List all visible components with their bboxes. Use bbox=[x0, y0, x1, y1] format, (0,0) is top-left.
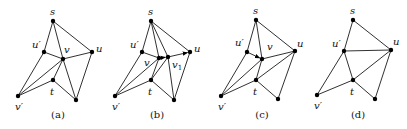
edge-u_prime-u bbox=[344, 50, 391, 51]
edge-s-u_prime bbox=[344, 20, 353, 51]
panel-d: su′utv′(d) bbox=[314, 5, 399, 120]
edge-t-w bbox=[151, 80, 174, 100]
node-label-v_prime: v′ bbox=[15, 101, 24, 112]
edge-s-u bbox=[53, 21, 92, 52]
node-label-v: v bbox=[144, 57, 150, 68]
node-u_prime bbox=[42, 50, 46, 54]
node-w bbox=[373, 97, 377, 101]
panels-container: su′vutv′(a)su′vv1utv′(b)su′vutv′(c)su′ut… bbox=[15, 5, 399, 120]
edge-s-v bbox=[256, 20, 262, 59]
node-label-u_prime: u′ bbox=[32, 39, 41, 50]
edge-t-v_prime bbox=[317, 80, 353, 95]
node-label-u_prime: u′ bbox=[332, 38, 341, 49]
edge-v-t bbox=[53, 59, 63, 80]
node-label-s: s bbox=[50, 6, 55, 17]
edge-u-w bbox=[278, 51, 295, 99]
node-t bbox=[351, 78, 355, 82]
node-label-s: s bbox=[148, 6, 153, 17]
edge-s-v bbox=[53, 21, 63, 59]
node-v_prime bbox=[315, 93, 319, 97]
panel-b: su′vv1utv′(b) bbox=[112, 6, 200, 120]
edge-t-u bbox=[353, 50, 391, 80]
node-u bbox=[389, 48, 393, 52]
edge-u-w bbox=[375, 50, 391, 99]
edge-u_prime-v_prime bbox=[18, 52, 44, 96]
node-u bbox=[90, 50, 94, 54]
edge-v1-t bbox=[151, 57, 168, 80]
node-s bbox=[149, 19, 153, 23]
node-u_prime bbox=[140, 50, 144, 54]
node-label-u: u bbox=[194, 43, 200, 54]
node-label-s: s bbox=[253, 5, 258, 16]
node-t bbox=[149, 78, 153, 82]
edge-s-u bbox=[256, 20, 295, 51]
panel-a: su′vutv′(a) bbox=[15, 6, 102, 120]
node-u bbox=[293, 49, 297, 53]
panel-caption-b: (b) bbox=[150, 109, 164, 120]
node-label-u_prime: u′ bbox=[130, 39, 139, 50]
node-label-t: t bbox=[253, 86, 258, 97]
node-v bbox=[157, 56, 161, 60]
edge-t-v_prime bbox=[221, 80, 256, 96]
graph-figure: su′vutv′(a)su′vv1utv′(b)su′vutv′(c)su′ut… bbox=[0, 0, 407, 129]
node-u_prime bbox=[245, 50, 249, 54]
node-label-v1: v1 bbox=[172, 59, 182, 72]
edge-u-w bbox=[76, 52, 92, 100]
edge-v-v_prime bbox=[18, 59, 63, 96]
node-label-v_prime: v′ bbox=[112, 101, 121, 112]
edge-s-u_prime bbox=[247, 20, 256, 52]
node-label-t: t bbox=[148, 86, 153, 97]
node-u bbox=[188, 50, 192, 54]
node-u_prime bbox=[342, 49, 346, 53]
edge-t-w bbox=[256, 80, 278, 99]
node-label-s: s bbox=[350, 5, 355, 16]
node-label-u: u bbox=[393, 36, 399, 47]
node-label-t: t bbox=[50, 86, 55, 97]
node-v_prime bbox=[113, 94, 117, 98]
panel-c: su′vutv′(c) bbox=[218, 5, 303, 120]
node-label-v_prime: v′ bbox=[218, 101, 227, 112]
edge-s-u_prime bbox=[44, 21, 53, 52]
edge-t-v_prime bbox=[18, 80, 53, 96]
panel-caption-d: (d) bbox=[351, 109, 365, 120]
edge-u_prime-v_prime bbox=[317, 51, 344, 95]
node-v bbox=[61, 57, 65, 61]
node-label-u_prime: u′ bbox=[235, 37, 244, 48]
node-v_prime bbox=[16, 94, 20, 98]
edge-u_prime-v_prime bbox=[221, 52, 247, 96]
node-s bbox=[254, 18, 258, 22]
edge-s-u bbox=[353, 20, 391, 50]
node-label-t: t bbox=[350, 86, 355, 97]
node-label-v_prime: v′ bbox=[314, 100, 323, 111]
arrow-edge-v1-u bbox=[168, 53, 188, 57]
node-v bbox=[260, 57, 264, 61]
node-label-v: v bbox=[64, 44, 70, 55]
node-w bbox=[276, 97, 280, 101]
node-t bbox=[254, 78, 258, 82]
node-label-u: u bbox=[96, 43, 102, 54]
node-label-u: u bbox=[297, 38, 303, 49]
edge-u_prime-v_prime bbox=[115, 52, 142, 96]
panel-caption-a: (a) bbox=[51, 109, 65, 120]
edge-s-u_prime bbox=[142, 21, 151, 52]
node-v1 bbox=[166, 55, 170, 59]
node-w bbox=[74, 98, 78, 102]
node-s bbox=[51, 19, 55, 23]
node-label-v: v bbox=[267, 41, 273, 52]
node-s bbox=[351, 18, 355, 22]
edge-u_prime-t bbox=[344, 51, 353, 80]
node-v_prime bbox=[219, 94, 223, 98]
node-t bbox=[51, 78, 55, 82]
edge-s-v1 bbox=[151, 21, 168, 57]
panel-caption-c: (c) bbox=[255, 109, 269, 120]
edge-t-w bbox=[353, 80, 375, 99]
edge-u_prime-v bbox=[44, 52, 63, 59]
node-w bbox=[172, 98, 176, 102]
